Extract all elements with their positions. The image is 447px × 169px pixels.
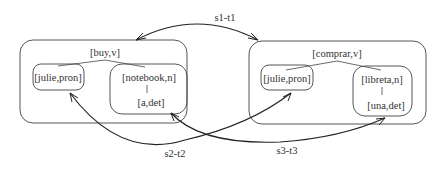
s2-t2-label: s2-t2 <box>165 148 186 159</box>
translation-correspondence-diagram: [buy,v] [julie,pron] [notebook,n] [a,det… <box>0 0 447 169</box>
link-s2-t2: s2-t2 <box>70 93 291 159</box>
target-tree: [comprar,v] [julie,pron] [libreta,n] [un… <box>249 41 426 124</box>
s1-t1-label: s1-t1 <box>215 12 236 23</box>
s1-t1-arc <box>136 24 258 40</box>
target-julie-node: [julie,pron] <box>263 73 311 84</box>
s3-t3-arc <box>171 113 385 142</box>
source-det-node: [a,det] <box>137 97 164 108</box>
source-edge-left <box>58 60 105 66</box>
link-s3-t3: s3-t3 <box>171 113 385 156</box>
source-notebook-node: [notebook,n] <box>122 72 176 83</box>
source-julie-node: [julie,pron] <box>34 72 82 83</box>
target-root-node: [comprar,v] <box>312 48 361 59</box>
link-s1-t1: s1-t1 <box>136 12 258 40</box>
target-edge-right <box>337 61 381 70</box>
target-det-node: [una,det] <box>367 100 405 111</box>
s2-t2-arc <box>70 93 291 145</box>
target-libreta-node: [libreta,n] <box>361 74 403 85</box>
source-root-node: [buy,v] <box>90 47 120 58</box>
s3-t3-label: s3-t3 <box>277 145 298 156</box>
source-tree: [buy,v] [julie,pron] [notebook,n] [a,det… <box>20 40 187 123</box>
source-edge-right <box>105 60 145 67</box>
